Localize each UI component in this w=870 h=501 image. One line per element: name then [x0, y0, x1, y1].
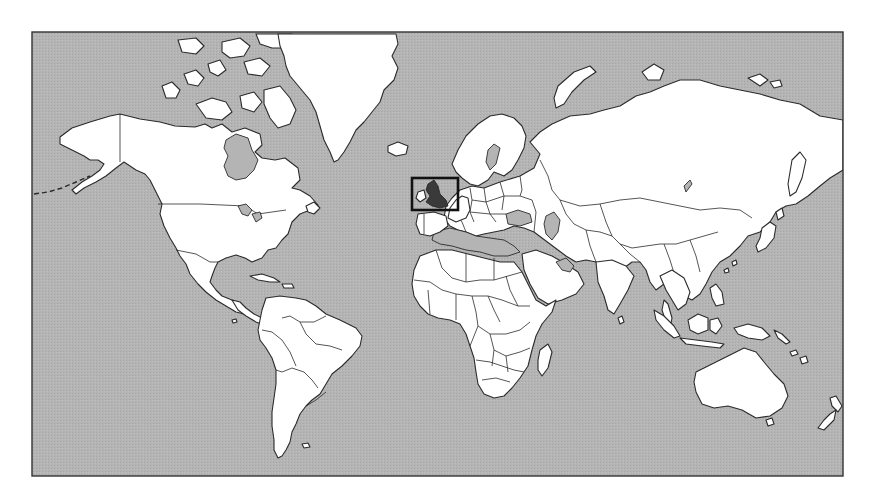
tasmania [766, 418, 774, 426]
world-map [0, 0, 870, 501]
world-map-svg [0, 0, 870, 501]
